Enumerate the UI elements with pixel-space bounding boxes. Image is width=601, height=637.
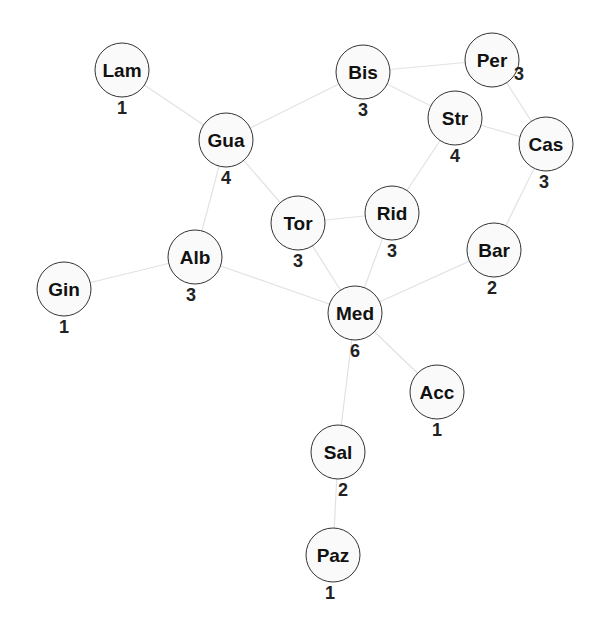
node-med: Med6 [328, 286, 382, 361]
node-bar: Bar2 [467, 223, 521, 298]
degree-label: 1 [432, 420, 442, 440]
degree-label: 4 [221, 168, 231, 188]
degree-label: 3 [539, 172, 549, 192]
node-alb: Alb3 [168, 230, 222, 305]
degree-label: 3 [387, 241, 397, 261]
node-label: Per [477, 50, 508, 71]
node-label: Cas [529, 134, 564, 155]
node-label: Gua [208, 130, 245, 151]
node-paz: Paz1 [306, 528, 360, 603]
node-label: Alb [180, 247, 211, 268]
node-str: Str4 [428, 91, 482, 166]
node-label: Paz [317, 545, 350, 566]
degree-label: 1 [325, 583, 335, 603]
degree-label: 1 [117, 98, 127, 118]
node-label: Tor [283, 213, 313, 234]
degree-label: 6 [350, 341, 360, 361]
degree-label: 1 [59, 317, 69, 337]
node-label: Bis [348, 62, 378, 83]
node-sal: Sal2 [311, 425, 365, 500]
degree-label: 3 [514, 64, 524, 84]
node-cas: Cas3 [519, 117, 573, 192]
degree-label: 3 [186, 285, 196, 305]
network-graph: Lam1Gua4Bis3Per3Str4Cas3Tor3Rid3Alb3Bar2… [0, 0, 601, 637]
node-label: Sal [324, 442, 353, 463]
node-label: Gin [48, 279, 80, 300]
node-label: Bar [478, 240, 510, 261]
node-label: Lam [102, 60, 141, 81]
nodes-layer: Lam1Gua4Bis3Per3Str4Cas3Tor3Rid3Alb3Bar2… [37, 33, 573, 603]
degree-label: 2 [338, 480, 348, 500]
node-gua: Gua4 [199, 113, 253, 188]
node-label: Acc [420, 382, 455, 403]
degree-label: 3 [358, 100, 368, 120]
node-label: Med [336, 303, 374, 324]
node-per: Per3 [465, 33, 524, 87]
node-bis: Bis3 [336, 45, 390, 120]
degree-label: 3 [293, 251, 303, 271]
node-acc: Acc1 [410, 365, 464, 440]
node-gin: Gin1 [37, 262, 91, 337]
node-label: Rid [377, 203, 408, 224]
node-tor: Tor3 [271, 196, 325, 271]
node-rid: Rid3 [365, 186, 419, 261]
degree-label: 2 [487, 278, 497, 298]
node-lam: Lam1 [95, 43, 149, 118]
degree-label: 4 [450, 146, 460, 166]
node-label: Str [442, 108, 469, 129]
